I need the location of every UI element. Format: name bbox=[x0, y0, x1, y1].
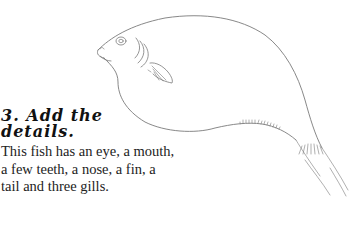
step-heading: 3. Add the details. bbox=[1, 108, 141, 140]
fish-gill-1 bbox=[135, 38, 140, 58]
fish-mouth bbox=[100, 56, 111, 61]
fish-fringe bbox=[240, 120, 280, 129]
step-heading-line-2: details. bbox=[1, 122, 75, 141]
fish-eye-outer bbox=[116, 37, 126, 45]
fish-nose bbox=[100, 48, 104, 50]
fish-eye-inner bbox=[119, 39, 123, 42]
fish-tail bbox=[296, 140, 348, 196]
fish-gill-3 bbox=[141, 44, 148, 67]
step-description: This fish has an eye, a mouth, a few tee… bbox=[1, 143, 176, 196]
fish-fin bbox=[150, 63, 172, 83]
